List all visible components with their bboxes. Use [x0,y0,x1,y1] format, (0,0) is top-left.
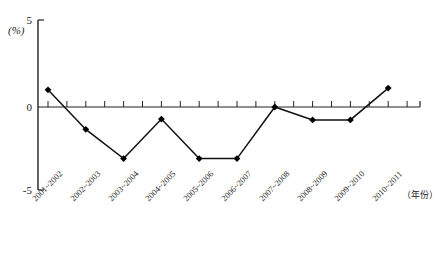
y-axis-unit-label: (%) [8,24,25,36]
line-chart: (%) 5 0 -5 2001~20022002~20032003~200420… [0,0,436,254]
data-point-marker [309,117,316,124]
data-series-line [48,88,388,159]
y-tick-label-0: 0 [27,101,33,113]
x-axis-ticks [48,101,407,107]
y-tick-label-5: 5 [27,14,33,26]
data-point-markers [45,85,392,162]
plot-area: 5 0 -5 [0,0,436,200]
axis-group: 5 0 -5 [23,14,420,196]
x-axis-unit-label: （年份） [402,188,436,201]
